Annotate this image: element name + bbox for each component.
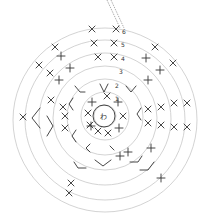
- svg-text:6: 6: [122, 28, 126, 35]
- v-stitch-symbols: [32, 84, 154, 170]
- svg-text:3: 3: [119, 68, 123, 75]
- svg-text:4: 4: [121, 55, 125, 62]
- svg-text:5: 5: [121, 41, 125, 48]
- single-crochet-symbols: [20, 26, 190, 196]
- start-line: [111, 0, 124, 28]
- crochet-chart: わ 1 2 3 4 5 6: [0, 0, 210, 219]
- start-line: [107, 0, 120, 28]
- svg-text:2: 2: [115, 82, 119, 89]
- plus-stitch-symbols: [55, 52, 165, 182]
- row-labels: 1 2 3 4 5 6: [115, 28, 126, 102]
- center-label: わ: [100, 113, 107, 121]
